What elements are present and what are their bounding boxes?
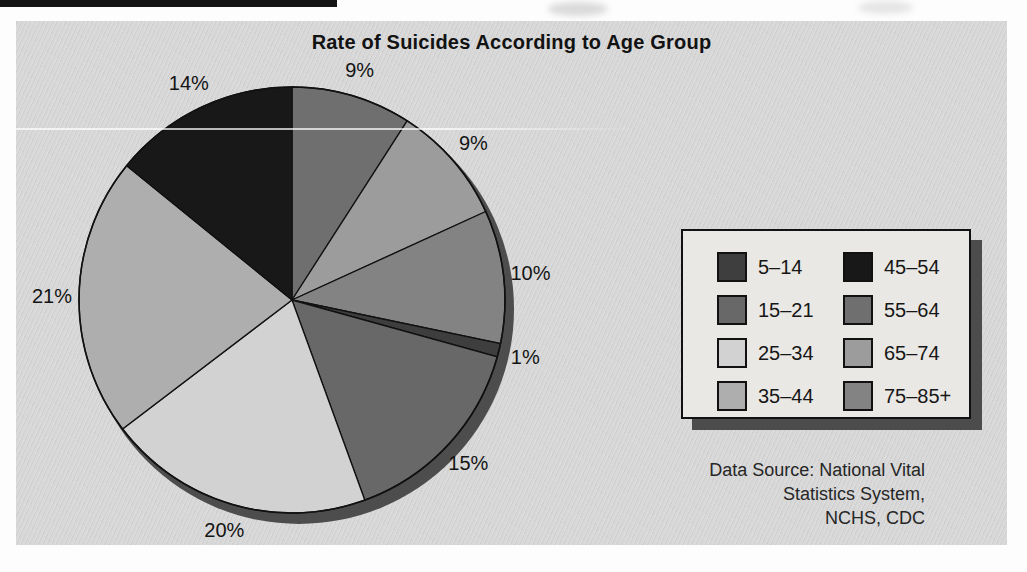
scan-artifact-line xyxy=(16,128,636,130)
slice-percent-label: 9% xyxy=(459,132,488,154)
pie-chart: 9%9%10%1%15%20%21%14% xyxy=(0,0,1027,572)
slice-percent-label: 21% xyxy=(32,285,72,307)
slice-percent-label: 20% xyxy=(204,519,244,541)
scanned-figure-page: Rate of Suicides According to Age Group … xyxy=(0,0,1027,572)
slice-percent-label: 9% xyxy=(345,59,374,81)
slice-percent-label: 14% xyxy=(169,72,209,94)
slice-percent-label: 1% xyxy=(511,346,540,368)
slice-percent-label: 15% xyxy=(448,452,488,474)
slice-percent-label: 10% xyxy=(511,262,551,284)
